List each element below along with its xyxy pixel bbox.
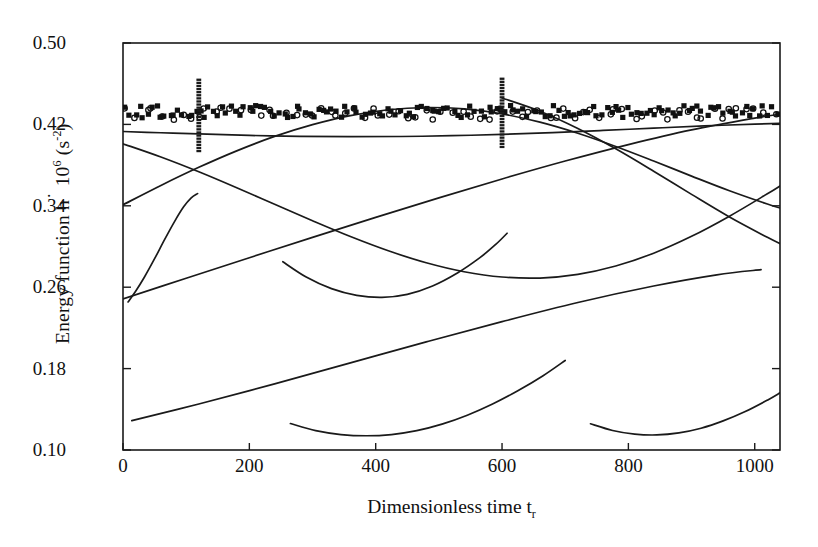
spike-marker: [196, 97, 201, 99]
spike-marker: [500, 87, 505, 89]
spike-marker: [500, 78, 505, 80]
plot-canvas: [0, 0, 818, 547]
scatter-marker-filled-square: [276, 110, 281, 115]
spike-marker: [500, 121, 505, 123]
scatter-marker-open-circle: [634, 116, 639, 121]
scatter-marker-open-circle: [461, 109, 466, 114]
series-curve-long-rising-line-bottom: [132, 270, 761, 421]
spike-marker: [196, 125, 201, 127]
spike-marker: [196, 138, 201, 140]
scatter-marker-open-circle: [761, 110, 766, 115]
scatter-marker-filled-square: [489, 109, 494, 114]
spike-marker: [196, 119, 201, 121]
scatter-marker-open-circle: [430, 117, 435, 122]
spike-marker: [196, 131, 201, 133]
spike-marker: [196, 79, 201, 81]
scatter-marker-filled-square: [471, 109, 476, 114]
scatter-marker-filled-square: [694, 103, 699, 108]
spike-marker: [196, 134, 201, 136]
scatter-marker-filled-square: [296, 106, 301, 111]
scatter-marker-filled-square: [625, 105, 630, 110]
series-curve-U-curve-bottom-right: [590, 393, 780, 435]
scatter-marker-filled-square: [681, 103, 686, 108]
spike-marker: [500, 93, 505, 95]
spike-marker: [196, 82, 201, 84]
scatter-marker-filled-square: [140, 115, 145, 120]
scatter-marker-filled-square: [487, 105, 492, 110]
series-curve-U-curve-mid-upper: [283, 233, 507, 297]
series-curve-sinusoid-B-descending-from-0.40: [123, 144, 780, 278]
spike-marker: [500, 90, 505, 92]
spike-marker: [196, 103, 201, 105]
scatter-marker-filled-square: [223, 110, 228, 115]
scatter-marker-filled-square: [138, 104, 143, 109]
scatter-marker-filled-square: [479, 109, 484, 114]
spike-marker: [500, 102, 505, 104]
spike-marker: [500, 146, 505, 148]
scatter-marker-filled-square: [769, 104, 774, 109]
scatter-marker-filled-square: [126, 113, 131, 118]
spike-marker: [500, 143, 505, 145]
spike-marker: [196, 110, 201, 112]
scatter-marker-filled-square: [605, 105, 610, 110]
scatter-marker-filled-square: [419, 104, 424, 109]
series-curve-sinusoid-A-rising-from-0.34: [123, 107, 780, 208]
spike-group-vertical-marker-spike-right: [500, 78, 505, 148]
spike-marker: [500, 118, 505, 120]
series-curve-descending-tail-right: [502, 98, 780, 244]
scatter-marker-filled-square: [733, 113, 738, 118]
spike-marker: [196, 88, 201, 90]
spike-marker: [500, 96, 505, 98]
series-layer: [122, 78, 780, 436]
spike-marker: [500, 81, 505, 83]
spike-marker: [196, 122, 201, 124]
scatter-marker-filled-square: [698, 109, 703, 114]
spike-marker: [196, 100, 201, 102]
scatter-marker-open-circle: [733, 106, 738, 111]
spike-marker: [196, 144, 201, 146]
spike-marker: [196, 85, 201, 87]
spike-marker: [500, 109, 505, 111]
chart-figure: Energy function h˙ 106 (s-2) Dimensionle…: [0, 0, 818, 547]
scatter-marker-filled-square: [175, 108, 180, 113]
spike-marker: [196, 147, 201, 149]
scatter-marker-filled-square: [253, 103, 258, 108]
scatter-marker-filled-square: [629, 112, 634, 117]
scatter-marker-filled-square: [760, 103, 765, 108]
spike-marker: [500, 112, 505, 114]
scatter-marker-filled-square: [706, 113, 711, 118]
scatter-marker-filled-square: [673, 113, 678, 118]
spike-marker: [500, 127, 505, 129]
scatter-marker-open-circle: [720, 116, 725, 121]
scatter-marker-filled-square: [543, 114, 548, 119]
scatter-marker-filled-square: [237, 113, 242, 118]
scatter-marker-open-circle: [487, 117, 492, 122]
scatter-marker-filled-square: [551, 103, 556, 108]
spike-marker: [196, 150, 201, 152]
scatter-marker-filled-square: [467, 104, 472, 109]
scatter-marker-filled-square: [445, 105, 450, 110]
spike-marker: [500, 136, 505, 138]
spike-marker: [500, 115, 505, 117]
spike-marker: [196, 116, 201, 118]
scatter-marker-filled-square: [720, 111, 725, 116]
scatter-marker-filled-square: [432, 109, 437, 114]
scatter-marker-open-circle: [698, 116, 703, 121]
scatter-marker-filled-square: [620, 115, 625, 120]
spike-marker: [500, 99, 505, 101]
scatter-marker-open-circle: [259, 113, 264, 118]
spike-marker: [196, 94, 201, 96]
spike-marker: [196, 91, 201, 93]
spike-marker: [196, 113, 201, 115]
scatter-marker-filled-square: [342, 104, 347, 109]
scatter-marker-filled-square: [459, 115, 464, 120]
spike-marker: [500, 124, 505, 126]
spike-marker: [196, 107, 201, 109]
spike-marker: [196, 128, 201, 130]
spike-marker: [500, 130, 505, 132]
scatter-marker-filled-square: [747, 113, 752, 118]
spike-marker: [500, 84, 505, 86]
scatter-marker-filled-square: [262, 105, 267, 110]
series-curve-long-rising-line-lower: [123, 114, 780, 299]
scatter-marker-filled-square: [520, 106, 525, 111]
